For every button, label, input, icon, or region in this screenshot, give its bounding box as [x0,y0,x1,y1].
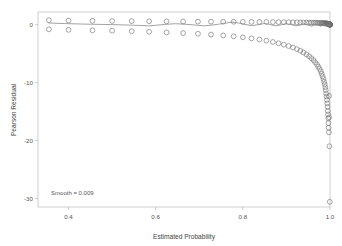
data-point-marker [147,19,152,24]
data-point-marker [209,32,214,37]
x-tick-label: 0.4 [64,213,73,220]
data-point-marker [164,30,169,35]
data-point-marker [129,19,134,24]
data-point-marker [110,19,115,24]
y-axis-tick-labels: 0-10-20-30 [24,21,34,202]
data-point-marker [327,115,332,120]
data-point-marker [276,20,281,25]
data-point-marker [196,19,201,24]
plot-frame [38,12,330,207]
data-point-marker [249,36,254,41]
data-point-marker [271,20,276,25]
data-point-marker [249,19,254,24]
x-tick-label: 0.8 [239,213,248,220]
x-tick-label: 1.0 [326,213,335,220]
data-point-marker [47,18,52,23]
x-axis-tick-labels: 0.40.60.81.0 [64,213,335,220]
data-point-marker [164,19,169,24]
data-point-marker [264,38,269,43]
x-axis-title: Estimated Probability [153,233,216,241]
chart-container: 0-10-20-30 0.40.60.81.0 Smooth = 0.009 E… [0,0,342,246]
data-point-marker [181,19,186,24]
data-point-marker [271,40,276,45]
data-point-marker [47,27,52,32]
data-point-marker [221,33,226,38]
y-axis-title: Pearson Residual [10,83,17,136]
y-tick-label: -30 [24,195,34,202]
x-tick-label: 0.6 [151,213,160,220]
data-point-marker [90,28,95,33]
data-point-marker [327,144,332,149]
data-point-marker [276,41,281,46]
series-lower-band-residuals [47,27,333,204]
data-series-layer [47,18,333,204]
y-tick-label: 0 [30,21,34,28]
data-point-marker [257,37,262,42]
data-point-marker [196,31,201,36]
data-point-marker [90,18,95,23]
data-point-marker [181,31,186,36]
data-point-marker [257,20,262,25]
data-point-marker [66,18,71,23]
y-axis-ticks [35,25,38,199]
data-point-marker [147,29,152,34]
y-tick-label: -10 [24,79,34,86]
data-point-marker [281,42,286,47]
data-point-marker [129,29,134,34]
y-tick-label: -20 [24,137,34,144]
data-point-marker [231,34,236,39]
data-point-marker [209,19,214,24]
smooth-parameter-annotation: Smooth = 0.009 [51,190,94,196]
data-point-marker [240,35,245,40]
series-upper-band-residuals [47,18,333,27]
x-axis-ticks [69,207,330,210]
data-point-marker [110,28,115,33]
annotation-layer: Smooth = 0.009 [51,190,94,196]
data-point-marker [66,27,71,32]
data-point-marker [326,130,331,135]
scatter-plot: 0-10-20-30 0.40.60.81.0 Smooth = 0.009 E… [0,0,342,246]
